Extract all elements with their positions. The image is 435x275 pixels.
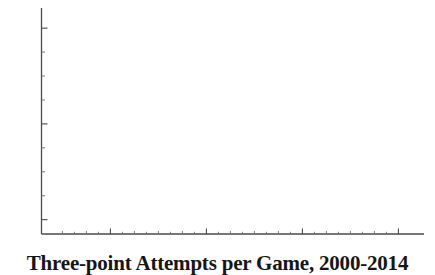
chart-svg	[0, 0, 435, 250]
figure-container: Three-point Attempts per Game, 2000-2014	[0, 0, 435, 275]
x-axis-ticks	[62, 229, 398, 235]
axis-group	[42, 8, 425, 234]
caption-text: Three-point Attempts per Game, 2000-2014	[0, 252, 435, 275]
plot-area	[0, 0, 435, 250]
y-axis-ticks	[42, 28, 48, 219]
figure-caption: Three-point Attempts per Game, 2000-2014	[0, 252, 435, 275]
